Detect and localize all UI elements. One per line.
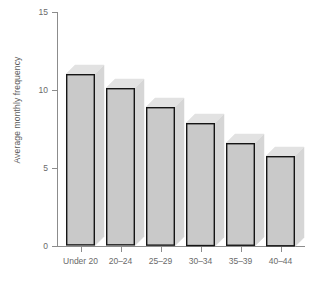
y-tick-label: 5	[18, 164, 48, 173]
bar-chart: Average monthly frequency 051015 Under 2…	[0, 0, 320, 285]
bar	[226, 134, 255, 246]
bar-3d-shape	[266, 147, 306, 248]
bar-3d-shape	[186, 114, 226, 248]
bar-3d-shape	[226, 134, 266, 248]
y-tick-label: 0	[18, 242, 48, 251]
bar-3d-shape	[66, 65, 106, 248]
x-tick-label: 40–44	[246, 256, 316, 266]
y-tick-mark	[52, 90, 57, 91]
y-tick-label: 10	[18, 86, 48, 95]
bar	[266, 147, 295, 246]
bar	[146, 98, 175, 246]
bar	[186, 114, 215, 246]
bar-3d-shape	[146, 98, 186, 248]
bar-3d-shape	[106, 79, 146, 248]
y-axis-line	[57, 12, 58, 247]
bar	[106, 79, 135, 246]
y-tick-mark	[52, 168, 57, 169]
y-tick-mark	[52, 12, 57, 13]
bar	[66, 65, 95, 246]
plot-area: 051015 Under 2020–2425–2930–3435–3940–44	[0, 0, 320, 285]
y-tick-mark	[52, 246, 57, 247]
y-tick-label: 15	[18, 8, 48, 17]
